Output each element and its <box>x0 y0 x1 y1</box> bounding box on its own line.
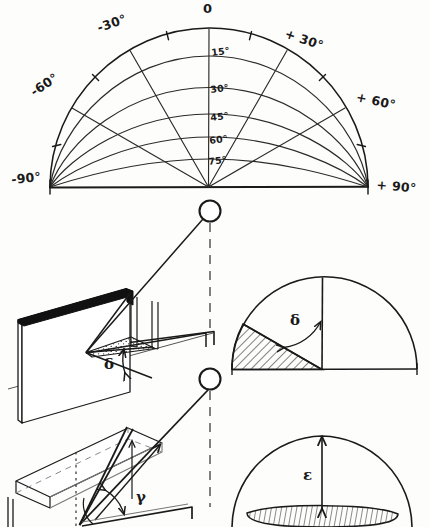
tick-p75 <box>357 145 365 147</box>
sun-ray-upper <box>86 219 203 353</box>
sun-ray-lines <box>86 219 203 353</box>
epsilon-polar-graphics <box>232 436 412 527</box>
sun-icon-delta <box>200 201 221 222</box>
altitude-label-45: 45° <box>210 110 230 123</box>
epsilon-symbol-polar: ε <box>303 466 312 484</box>
azimuth-radial-n30 <box>130 51 209 188</box>
delta-polar-graphics <box>232 277 417 375</box>
figure-vector-layer <box>0 0 429 527</box>
altitude-label-30: 30° <box>210 82 230 95</box>
gamma-symbol-perspective: γ <box>136 488 146 506</box>
delta-hatched-sector <box>232 324 322 370</box>
sundial-geometry-figure: -90° -60° -30° 0 + 30° + 60° + 90° 15° 3… <box>0 0 429 527</box>
support-post <box>8 497 13 527</box>
delta-polar-vertical-radius <box>322 278 323 370</box>
delta-symbol-perspective: δ <box>104 355 114 373</box>
delta-symbol-polar: δ <box>290 311 300 329</box>
sun-icon-gamma <box>200 369 221 390</box>
altitude-label-75: 75° <box>208 154 228 167</box>
azimuth-label-minus-90: -90° <box>10 169 41 187</box>
tick-n75 <box>53 145 61 147</box>
altitude-label-60: 60° <box>209 133 229 146</box>
delta-perspective-graphics <box>8 201 221 424</box>
altitude-label-15: 15° <box>211 45 231 58</box>
azimuth-label-zero: 0 <box>203 1 212 16</box>
